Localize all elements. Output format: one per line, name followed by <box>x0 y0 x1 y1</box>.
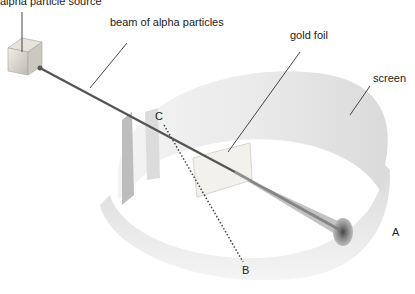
alpha-beam-through <box>235 172 340 230</box>
label-point-c: C <box>155 111 163 122</box>
label-beam: beam of alpha particles <box>110 17 224 28</box>
scatter-cone <box>232 172 345 240</box>
label-point-b: B <box>242 265 249 276</box>
diagram-canvas: alpha particle source beam of alpha part… <box>0 0 415 294</box>
label-screen: screen <box>373 73 406 84</box>
detection-spot <box>333 218 353 246</box>
leader-beam <box>90 43 127 88</box>
source-box-front <box>8 48 28 75</box>
source-aperture <box>38 66 43 71</box>
label-source: alpha particle source <box>0 0 102 7</box>
label-point-a: A <box>392 227 399 238</box>
slit-panel-left <box>122 112 134 205</box>
label-gold-foil: gold foil <box>290 30 328 41</box>
experiment-illustration <box>0 0 415 294</box>
gold-foil <box>193 143 252 197</box>
